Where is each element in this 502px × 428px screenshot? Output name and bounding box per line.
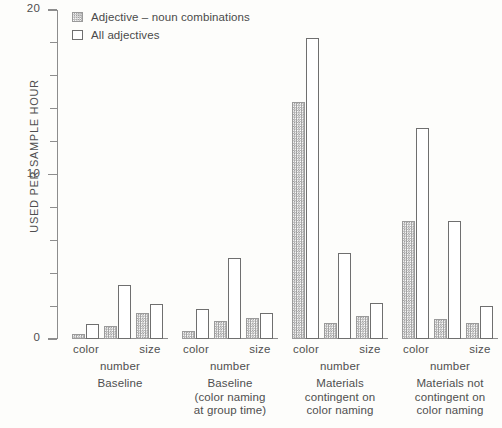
- bar-all-adjectives-number: [228, 258, 241, 339]
- bar-adjective-noun-number: [104, 326, 117, 339]
- bar-group-1: [72, 10, 168, 339]
- x-label-color-group-3: color: [285, 343, 327, 355]
- caption-line: Baseline: [56, 377, 184, 391]
- bar-all-adjectives-color: [416, 128, 429, 339]
- caption-line: contingent on: [386, 391, 502, 405]
- caption-line: Materials: [276, 377, 404, 391]
- group-caption-2: Baseline(color namingat group time): [166, 377, 294, 418]
- y-tick-8: [50, 207, 57, 208]
- y-tick-label-0: 0: [14, 331, 40, 343]
- group-caption-3: Materialscontingent oncolor naming: [276, 377, 404, 418]
- bar-all-adjectives-number: [118, 285, 131, 339]
- caption-line: (color naming: [166, 391, 294, 405]
- y-tick-12: [50, 141, 57, 142]
- caption-line: color naming: [386, 404, 502, 418]
- bar-adjective-noun-size: [246, 318, 259, 339]
- bar-all-adjectives-color: [86, 324, 99, 339]
- x-label-number-group-2: number: [204, 360, 256, 372]
- bar-adjective-noun-number: [324, 323, 337, 339]
- x-label-size-group-1: size: [129, 343, 171, 355]
- group-caption-4: Materials notcontingent oncolor naming: [386, 377, 502, 418]
- bar-all-adjectives-size: [260, 313, 273, 339]
- y-tick-6: [50, 240, 57, 241]
- x-label-size-group-2: size: [239, 343, 281, 355]
- y-tick-4: [50, 273, 57, 274]
- x-label-color-group-1: color: [65, 343, 107, 355]
- y-tick-label-20: 20: [14, 2, 40, 14]
- y-axis-title: USED PER SAMPLE HOUR: [28, 56, 40, 256]
- plot-area: [58, 10, 488, 339]
- bar-all-adjectives-size: [480, 306, 493, 339]
- bar-adjective-noun-color: [182, 331, 195, 339]
- x-label-number-group-1: number: [94, 360, 146, 372]
- bar-adjective-noun-size: [356, 316, 369, 339]
- y-tick-14: [50, 108, 57, 109]
- bar-all-adjectives-color: [196, 309, 209, 339]
- x-label-size-group-3: size: [349, 343, 391, 355]
- group-caption-1: Baseline: [56, 377, 184, 391]
- bar-all-adjectives-size: [150, 304, 163, 339]
- bar-group-2: [182, 10, 278, 339]
- x-label-number-group-4: number: [424, 360, 476, 372]
- bar-all-adjectives-color: [306, 38, 319, 339]
- x-label-number-group-3: number: [314, 360, 366, 372]
- caption-line: at group time): [166, 404, 294, 418]
- bar-all-adjectives-size: [370, 303, 383, 339]
- x-label-color-group-2: color: [175, 343, 217, 355]
- y-tick-16: [50, 75, 57, 76]
- y-tick-label-10: 10: [14, 167, 40, 179]
- bar-adjective-noun-size: [466, 323, 479, 339]
- caption-line: Materials not: [386, 377, 502, 391]
- bar-adjective-noun-color: [292, 102, 305, 339]
- y-tick-20: [48, 9, 57, 10]
- bar-adjective-noun-color: [402, 221, 415, 339]
- y-tick-2: [50, 306, 57, 307]
- bar-all-adjectives-number: [338, 253, 351, 339]
- x-label-color-group-4: color: [395, 343, 437, 355]
- bar-adjective-noun-number: [214, 321, 227, 339]
- caption-line: color naming: [276, 404, 404, 418]
- bar-group-3: [292, 10, 388, 339]
- bar-adjective-noun-number: [434, 319, 447, 339]
- caption-line: Baseline: [166, 377, 294, 391]
- bar-group-4: [402, 10, 498, 339]
- x-label-size-group-4: size: [459, 343, 501, 355]
- caption-line: contingent on: [276, 391, 404, 405]
- y-tick-0: [48, 338, 57, 339]
- bar-adjective-noun-color: [72, 334, 85, 339]
- clipped-figure-caption: [4, 417, 134, 424]
- bar-adjective-noun-size: [136, 313, 149, 339]
- y-tick-18: [50, 42, 57, 43]
- bar-all-adjectives-number: [448, 221, 461, 339]
- y-tick-10: [48, 174, 57, 175]
